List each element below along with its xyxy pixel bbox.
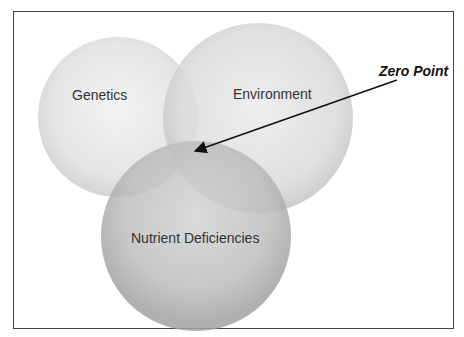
venn-diagram [0,0,464,337]
label-nutrient-deficiencies: Nutrient Deficiencies [131,230,259,246]
label-zero-point: Zero Point [379,63,448,79]
label-environment: Environment [233,86,312,102]
label-genetics: Genetics [72,87,127,103]
